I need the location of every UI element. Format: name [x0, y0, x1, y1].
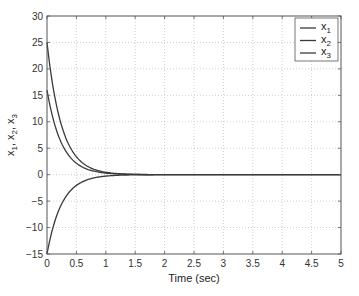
x-tick-label: 2 [162, 258, 168, 269]
legend-box [295, 18, 338, 61]
y-tick-label: 10 [32, 116, 44, 127]
y-tick-label: −5 [32, 196, 44, 207]
y-tick-label: 5 [37, 143, 43, 154]
legend: x1x2x3 [295, 18, 338, 61]
x-tick-label: 3 [221, 258, 227, 269]
line-chart: 00.511.522.533.544.55−15−10−505101520253… [0, 0, 359, 296]
x-axis-label: Time (sec) [168, 272, 220, 284]
x-tick-label: 0 [44, 258, 50, 269]
y-tick-label: 25 [32, 37, 44, 48]
y-tick-label: −10 [26, 222, 43, 233]
x-tick-label: 4 [279, 258, 285, 269]
x-tick-label: 3.5 [246, 258, 260, 269]
y-tick-label: −15 [26, 249, 43, 260]
x-tick-label: 2.5 [187, 258, 201, 269]
x-tick-label: 1 [103, 258, 109, 269]
x-tick-label: 1.5 [128, 258, 142, 269]
x-tick-label: 0.5 [69, 258, 83, 269]
series-x2 [47, 90, 341, 175]
x-tick-label: 4.5 [305, 258, 319, 269]
y-tick-label: 15 [32, 90, 44, 101]
y-tick-label: 0 [37, 169, 43, 180]
y-tick-label: 20 [32, 63, 44, 74]
y-tick-label: 30 [32, 11, 44, 22]
x-tick-label: 5 [338, 258, 344, 269]
y-axis-label: x1, x2, x3 [4, 113, 19, 156]
